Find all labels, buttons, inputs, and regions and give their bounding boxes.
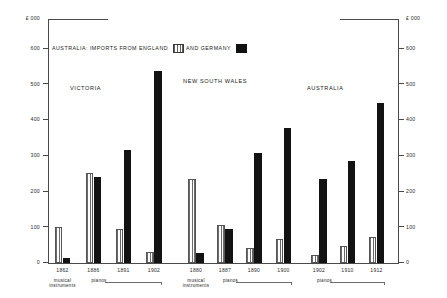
bar-germany-australia-1910	[348, 161, 355, 263]
y-tick-right-500	[399, 83, 404, 84]
bar-germany-victoria-1862	[63, 258, 70, 262]
y-tick-right-600	[399, 48, 404, 49]
x-group-rule-endcap-victoria	[161, 282, 162, 284]
bar-england-australia-1912	[369, 237, 376, 262]
y-tick-label-right-200: 200	[406, 188, 415, 194]
bar-germany-victoria-1902	[154, 71, 161, 262]
y-tick-label-left-500: 500	[6, 81, 40, 87]
bar-england-victoria-1891	[116, 229, 123, 263]
x-label-australia-1902: 1902	[313, 267, 325, 273]
bar-england-victoria-1902	[146, 252, 153, 263]
y-tick-right-300	[399, 155, 404, 156]
x-axis-group-labels: musicalinstrumentspianosmusicalinstrumen…	[0, 277, 447, 298]
x-label-new-south-wales-1890: 1890	[248, 267, 260, 273]
bar-england-new-south-wales-1900	[276, 239, 283, 262]
y-tick-right-400	[399, 119, 404, 120]
bar-england-new-south-wales-1890	[246, 248, 253, 262]
x-group-rule-endcap-australia	[384, 282, 385, 284]
y-tick-right-100	[399, 226, 404, 227]
y-tick-label-right-300: 300	[406, 152, 415, 158]
bar-england-new-south-wales-1880	[188, 179, 195, 263]
y-tick-label-left-200: 200	[6, 188, 40, 194]
bar-germany-new-south-wales-1900	[284, 128, 291, 262]
x-label-new-south-wales-1887: 1887	[219, 267, 231, 273]
bar-germany-australia-1902	[319, 179, 326, 263]
plot-area	[48, 19, 399, 263]
x-axis-baseline	[48, 263, 399, 264]
y-tick-label-right-500: 500	[406, 81, 415, 87]
y-axis-unit-label-left: £ 000	[6, 15, 40, 21]
y-tick-label-right-0: 0	[406, 259, 409, 265]
x-group-rule-australia	[330, 282, 385, 283]
bar-germany-new-south-wales-1887	[225, 229, 232, 263]
y-axis-unit-label-right: £ 000	[406, 15, 420, 21]
x-label-victoria-1862: 1862	[56, 267, 68, 273]
x-label-australia-1912: 1912	[370, 267, 382, 273]
bar-germany-victoria-1891	[124, 150, 131, 263]
x-label-australia-1910: 1910	[341, 267, 353, 273]
bar-england-victoria-1862	[55, 227, 62, 263]
y-tick-label-right-400: 400	[406, 116, 415, 122]
y-tick-label-left-100: 100	[6, 224, 40, 230]
x-label-new-south-wales-1900: 1900	[277, 267, 289, 273]
bar-germany-australia-1912	[377, 103, 384, 262]
y-tick-label-right-100: 100	[406, 224, 415, 230]
x-group-label-musical-instruments-victoria: musicalinstruments	[49, 278, 76, 289]
bar-germany-new-south-wales-1880	[196, 253, 203, 263]
bar-germany-new-south-wales-1890	[254, 153, 261, 262]
y-tick-label-left-300: 300	[6, 152, 40, 158]
y-tick-label-left-400: 400	[6, 116, 40, 122]
chart-container: £ 000 £ 000 6006005005004004003003002002…	[0, 0, 447, 298]
x-label-victoria-1891: 1891	[117, 267, 129, 273]
x-group-rule-new-south-wales	[236, 282, 292, 283]
y-tick-right-200	[399, 191, 404, 192]
x-group-label-musical-instruments-new-south-wales: musicalinstruments	[183, 278, 210, 289]
x-label-victoria-1886: 1886	[87, 267, 99, 273]
x-group-rule-victoria	[105, 282, 163, 283]
bar-england-australia-1910	[340, 246, 347, 262]
bar-germany-victoria-1886	[94, 177, 101, 263]
x-label-new-south-wales-1880: 1880	[190, 267, 202, 273]
bar-england-victoria-1886	[86, 173, 93, 262]
x-group-rule-endcap-new-south-wales	[291, 282, 292, 284]
bar-england-new-south-wales-1887	[217, 225, 224, 263]
x-label-victoria-1902: 1902	[148, 267, 160, 273]
y-tick-label-right-600: 600	[406, 45, 415, 51]
y-tick-right-0	[399, 262, 404, 263]
y-tick-label-left-0: 0	[6, 259, 40, 265]
y-tick-label-left-600: 600	[6, 45, 40, 51]
bar-england-australia-1902	[311, 255, 318, 262]
